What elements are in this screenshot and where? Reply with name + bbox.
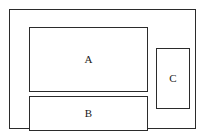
outer-container-frame: A B C bbox=[9, 9, 196, 129]
diagram-canvas: A B C bbox=[0, 0, 206, 138]
block-b-label: B bbox=[85, 108, 92, 119]
block-c[interactable]: C bbox=[156, 48, 190, 109]
block-a[interactable]: A bbox=[29, 27, 148, 92]
block-c-label: C bbox=[169, 73, 176, 84]
block-a-label: A bbox=[85, 54, 93, 65]
block-b[interactable]: B bbox=[29, 96, 148, 131]
